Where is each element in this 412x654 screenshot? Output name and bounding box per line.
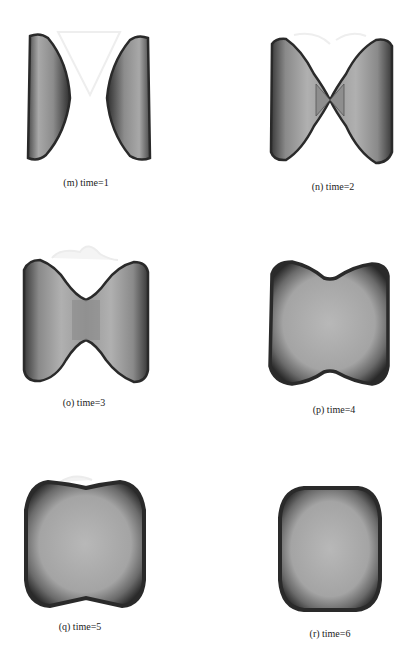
block-q bbox=[26, 482, 144, 606]
isosurface-r bbox=[206, 430, 412, 654]
caption-p: (p) time=4 bbox=[313, 404, 356, 415]
caption-r: (r) time=6 bbox=[310, 628, 351, 639]
peanut-p bbox=[270, 262, 388, 384]
panel-q: (q) time=5 bbox=[0, 430, 206, 654]
isosurface-q bbox=[0, 430, 206, 654]
caption-q: (q) time=5 bbox=[59, 621, 102, 632]
lens-left bbox=[28, 34, 70, 159]
caption-m: (m) time=1 bbox=[63, 177, 108, 188]
caption-n: (n) time=2 bbox=[312, 181, 355, 192]
block-r bbox=[280, 488, 380, 610]
lens-right bbox=[107, 36, 150, 159]
panel-m: (m) time=1 bbox=[0, 0, 206, 200]
panel-p: (p) time=4 bbox=[206, 220, 412, 430]
panel-o: (o) time=3 bbox=[0, 220, 206, 430]
isosurface-p bbox=[206, 220, 412, 430]
panel-n: (n) time=2 bbox=[206, 0, 412, 210]
isosurface-m bbox=[0, 0, 206, 200]
panel-r: (r) time=6 bbox=[206, 430, 412, 654]
caption-o: (o) time=3 bbox=[63, 397, 106, 408]
isosurface-n bbox=[206, 0, 412, 210]
